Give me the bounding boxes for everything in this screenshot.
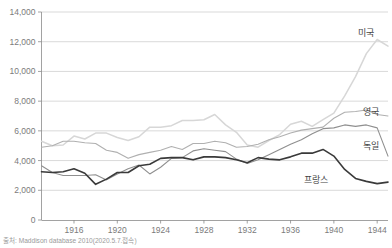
series-label-germany: 독일 [363,141,379,151]
series-label-france: 프랑스 [304,174,328,185]
series-label-usa: 미국 [358,28,374,38]
source-note: 출처: Maddison database 2010(2020.5.7.접속) [3,236,137,245]
x-tick-label: 1944 [368,225,387,235]
x-tick-label: 1940 [324,225,343,235]
y-tick-label: 0 [31,215,36,225]
y-tick-label: 2,000 [14,185,36,195]
chart-svg: 02,0004,0006,0008,00010,00012,00014,000 … [0,0,392,248]
chart-background [0,0,392,248]
y-tick-label: 14,000 [10,7,36,17]
x-tick-label: 1932 [238,225,257,235]
x-tick-label: 1920 [108,225,127,235]
gdp-line-chart: 02,0004,0006,0008,00010,00012,00014,000 … [0,0,392,248]
y-tick-label: 8,000 [14,96,36,106]
y-tick-label: 12,000 [10,37,36,47]
series-label-uk: 영국 [363,107,379,117]
x-tick-label: 1924 [151,225,170,235]
x-tick-label: 1928 [194,225,213,235]
x-tick-label: 1936 [281,225,300,235]
y-tick-label: 10,000 [10,66,36,76]
y-tick-label: 4,000 [14,156,36,166]
y-tick-label: 6,000 [14,126,36,136]
x-tick-label: 1916 [65,225,84,235]
